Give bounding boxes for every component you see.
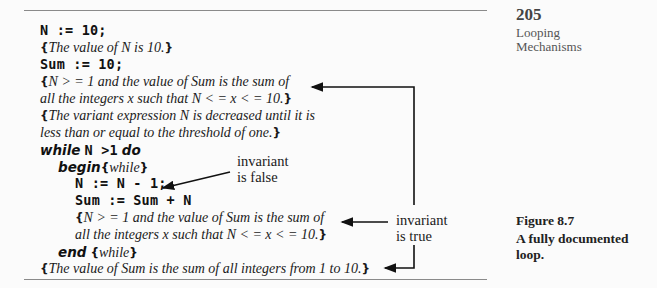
arrow-invariant-true-down [385,245,414,268]
arrow-invariant-true-up [312,87,414,205]
bottom-rule [24,279,487,280]
page-number: 205 [516,5,542,25]
figure-caption-line2: loop. [516,247,544,263]
arrow-invariant-false [163,172,230,188]
figure-caption-line1: A fully documented [516,231,629,247]
figure-label: Figure 8.7 [516,213,574,229]
section-title-line2: Mechanisms [516,39,582,55]
